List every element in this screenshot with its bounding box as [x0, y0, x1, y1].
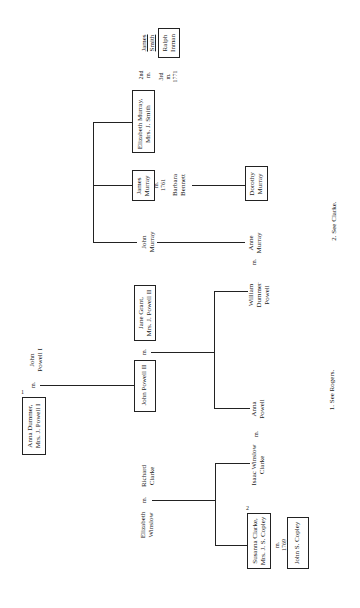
anne-murray-line1: Anne — [247, 229, 255, 257]
second-marriage-m: m. — [145, 65, 152, 85]
elizabeth-murray-label: Elizabeth Murray, Mrs. J. Smith — [136, 93, 152, 155]
william-dummer-powell-label: William Dummer Powell — [247, 281, 271, 309]
john-murray-connector — [93, 242, 137, 243]
elizabeth-murray-connector — [93, 122, 133, 123]
murray-children-line — [93, 122, 94, 243]
john-anne-murray-marriage-line — [157, 242, 245, 243]
powell2-marriage-label: m. — [141, 347, 149, 357]
dorothy-murray-label: Dorothy Murray — [248, 164, 264, 204]
william-powell-line1: William — [247, 281, 255, 309]
william-powell-line3: Powell — [263, 281, 271, 309]
dorothy-murray-line1: Dorothy — [248, 164, 256, 204]
marriage-m: m. — [153, 173, 160, 197]
barbara-bennett-label: Barbara Bennett — [171, 168, 187, 202]
barbara-bennett-line2: Bennett — [179, 168, 187, 202]
clarke-marriage-label: m. — [141, 495, 149, 505]
john-murray-line1: John — [140, 227, 148, 257]
isaac-winslow-clarke-label: Isaac Winslow Clarke — [250, 443, 266, 487]
john-powell-1-line1: John — [28, 344, 36, 376]
copley-marriage-m: m. — [274, 534, 281, 556]
james-smith-line1: James — [140, 29, 148, 57]
anna-dummer-label: Anna Dummer, Mrs. J. Powell I — [26, 398, 42, 454]
john-powell-1-line2: Powell I — [36, 344, 44, 376]
anna-powell-line1: Anna — [250, 395, 258, 423]
susanna-clarke-connector — [215, 545, 248, 546]
elizabeth-winslow-line2: Winslow — [147, 508, 155, 542]
anna-powell-connector — [214, 408, 250, 409]
elizabeth-winslow-line1: Elizabeth — [139, 508, 147, 542]
william-anne-marriage-label: m. — [251, 257, 259, 267]
isaac-clarke-connector — [215, 463, 250, 464]
john-s-copley-label: John S. Copley — [293, 518, 303, 568]
third-marriage-year: 1771 — [172, 65, 179, 89]
susanna-clarke-line2: Mrs. J. S. Copley — [259, 513, 267, 569]
james-smith-label: James Smith — [140, 29, 156, 57]
ralph-inman-line2: Inman — [169, 24, 177, 62]
elizabeth-winslow-label: Elizabeth Winslow — [139, 508, 155, 542]
anna-powell-line2: Powell — [258, 395, 266, 423]
richard-clarke-line2: Clarke — [148, 461, 156, 491]
powell-children-line — [214, 291, 215, 409]
elizabeth-murray-line1: Elizabeth Murray, — [136, 93, 144, 155]
jane-grant-line1: Jane Grant, — [137, 285, 145, 341]
anna-dummer-line1: Anna Dummer, — [26, 398, 34, 454]
elizabeth-murray-line2: Mrs. J. Smith — [144, 93, 152, 155]
jane-grant-line2: Mrs. J. Powell II — [145, 285, 153, 341]
john-murray-label: John Murray — [140, 227, 156, 257]
powell1-marriage-label: m. — [30, 380, 38, 390]
footnote-marker-1: 1 — [21, 389, 24, 395]
footnote-1: 1. See Rogers. — [328, 365, 338, 415]
third-marriage-m: m. — [165, 65, 172, 89]
clarke-marriage-line — [152, 500, 215, 501]
james-murray-line1: James — [135, 166, 143, 206]
john-powell-1-label: John Powell I — [28, 344, 44, 376]
marriage-year: 1761 — [160, 173, 167, 197]
susanna-clarke-line1: Susanna Clarke, — [251, 513, 259, 569]
richard-clarke-label: Richard Clarke — [140, 461, 156, 491]
second-marriage-label: 2nd m. — [138, 65, 152, 85]
isaac-clarke-line2: Clarke — [258, 443, 266, 487]
james-murray-line2: Murray — [143, 166, 151, 206]
third-marriage-ordinal: 3rd — [158, 65, 165, 89]
dorothy-murray-connector — [192, 185, 246, 186]
susanna-clarke-label: Susanna Clarke, Mrs. J. S. Copley — [251, 513, 267, 569]
footnote-marker-2: 2 — [246, 505, 249, 511]
powell1-to-son-line — [40, 385, 135, 386]
james-smith-line2: Smith — [148, 29, 156, 57]
third-marriage-label: 3rd m. 1771 — [158, 65, 179, 89]
ralph-inman-label: Ralph Inman — [161, 24, 177, 62]
william-powell-connector — [214, 291, 248, 292]
james-murray-connector — [93, 185, 133, 186]
james-murray-label: James Murray — [135, 166, 151, 206]
footnote-2: 2. See Clarke. — [330, 199, 340, 243]
john-murray-line2: Murray — [148, 227, 156, 257]
anna-powell-label: Anna Powell — [250, 395, 266, 423]
clarke-children-line — [215, 463, 216, 546]
anne-murray-line2: Murray — [255, 229, 263, 257]
copley-marriage-label: m. 1769 — [274, 534, 288, 556]
anna-dummer-line2: Mrs. J. Powell I — [34, 398, 42, 454]
jane-grant-label: Jane Grant, Mrs. J. Powell II — [137, 285, 153, 341]
anna-powell-marriage-label: m. — [253, 429, 261, 439]
anne-murray-label: Anne Murray — [247, 229, 263, 257]
isaac-clarke-line1: Isaac Winslow — [250, 443, 258, 487]
william-powell-line2: Dummer — [255, 281, 263, 309]
ralph-inman-line1: Ralph — [161, 24, 169, 62]
powell2-marriage-line — [151, 352, 214, 353]
james-murray-marriage-label: m. 1761 — [153, 173, 167, 197]
dorothy-murray-line2: Murray — [256, 164, 264, 204]
second-marriage-ordinal: 2nd — [138, 65, 145, 85]
john-powell-2-label: John Powell II — [140, 360, 150, 410]
barbara-bennett-line1: Barbara — [171, 168, 179, 202]
richard-clarke-line1: Richard — [140, 461, 148, 491]
